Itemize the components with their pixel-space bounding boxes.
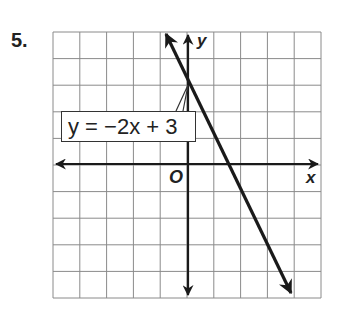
y-axis-label: y bbox=[197, 31, 206, 51]
origin-label: O bbox=[169, 167, 183, 188]
equation-label: y = −2x + 3 bbox=[61, 111, 196, 142]
label-callout-pointer bbox=[176, 85, 188, 111]
coordinate-graph bbox=[0, 0, 337, 315]
x-axis-label: x bbox=[306, 168, 315, 188]
